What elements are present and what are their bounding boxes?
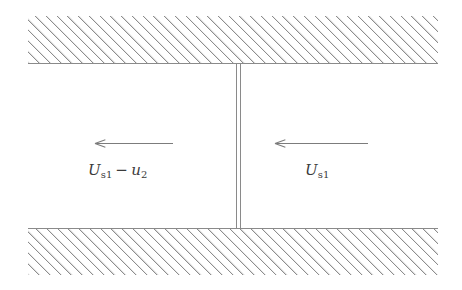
lower-channel-wall-edge: [28, 228, 438, 229]
right-label-symbol: U: [305, 161, 318, 179]
right-flow-arrow-shaft: [275, 143, 368, 144]
shock-front-line-left: [236, 63, 237, 229]
left-label-operator: −: [112, 161, 131, 179]
right-label-symbol-subscript: s1: [318, 169, 330, 180]
left-label-symbol2-subscript: 2: [141, 169, 147, 180]
upper-channel-wall-edge: [28, 63, 438, 64]
left-label-symbol-subscript: s1: [101, 169, 113, 180]
left-label-symbol: U: [88, 161, 101, 179]
shock-front-line-right: [240, 63, 241, 229]
left-flow-arrow-shaft: [95, 143, 173, 144]
lower-channel-wall: [28, 228, 438, 275]
left-velocity-label: Us1−u2: [88, 161, 147, 180]
left-flow-arrow-icon: [95, 135, 173, 151]
upper-channel-wall: [28, 16, 438, 63]
left-label-symbol2: u: [131, 161, 141, 179]
shock-channel-diagram: Us1−u2 Us1: [0, 0, 462, 290]
right-flow-arrow-icon: [275, 135, 368, 151]
right-velocity-label: Us1: [305, 161, 329, 180]
